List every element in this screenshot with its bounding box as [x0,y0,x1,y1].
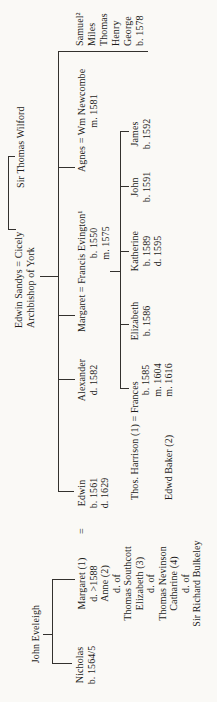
connector-eveleigh-descent [43,634,52,635]
wife-3-father: Thomas Nevinson [157,511,169,656]
person-elizabeth: Elizabeth b. 1586 [129,292,152,350]
connector-cicely-up [8,229,16,230]
death-date: d. 1582 [88,346,100,414]
person-sir-thomas-wilford: Sir Thomas Wilford [15,106,26,188]
person-margaret-francis-evington: Margaret = Francis Evington¹ [76,210,87,332]
drop-nicholas [52,663,72,664]
agnes-marriage-date: m. 1581 [88,80,100,142]
person-john-eveleigh: John Eveleigh [30,596,41,672]
drop-john [120,186,129,187]
person-name: James [129,106,141,162]
person-john: John b. 1591 [129,159,152,215]
baker-marriage-date: m. 1616 [163,350,174,410]
person-agnes-wm-newcombe: Agnes = Wm Newcombe [76,69,87,172]
wife-2-d-of: d. of [111,511,123,656]
younger-children-list: Samuel² Miles Thomas Henry George b. 157… [74,0,146,46]
drop-elizabeth [120,324,129,325]
person-henry: Henry [110,0,122,46]
wife-3-name: Elizabeth (3) [134,511,146,656]
bar-younger-children [58,51,148,52]
wife-3-d-of: d. of [145,511,157,656]
drop-agnes [58,167,75,168]
person-name: Elizabeth [129,292,141,350]
marriage-date: m. 1581 [88,80,100,142]
birth-date: b. 1586 [141,292,153,350]
sibling-bar-eveleigh-children [52,579,53,664]
birth-date: b. 1585 [140,350,152,410]
birth-date: b. 1592 [141,106,153,162]
person-edwin-sandys-cicely: Edwin Sandys = Cicely [13,232,24,328]
person-edwd-baker: Edwd Baker (2) [163,435,174,500]
person-edwin: Edwin b. 1561 d. 1629 [76,464,111,522]
death-date: d. 1595 [152,222,164,280]
drop-margaret-evington [58,315,75,316]
drop-margaret-eveleigh [52,579,75,580]
connector-cicely-wilford [8,156,9,230]
person-james: James b. 1592 [129,106,152,162]
drop-alexander [58,379,75,380]
person-name: Alexander [76,346,88,414]
birth-date: b. 1591 [141,159,153,215]
marriage-date: m. 1575 [100,212,112,274]
person-thomas: Thomas [98,0,110,46]
drop-frances [120,388,129,389]
person-alexander: Alexander d. 1582 [76,346,99,414]
sibling-bar-evington-children [120,132,121,389]
wife-2-father: Thomas Southcott [122,511,134,656]
birth-date: b. 1589 [141,222,153,280]
drop-edwin [58,491,74,492]
birth-date: b. 1561 [88,464,100,522]
connector-evington-descent [110,271,120,272]
wives-of-edwin-list: Margaret (1) d. >1588 Anne (2) d. of Tho… [76,511,203,656]
person-george: George [122,0,134,46]
wife-4-father: Sir Richard Bulkeley [191,511,203,656]
connector-wilford-down [8,156,15,157]
marriage-date: m. 1604 [152,350,164,410]
drop-james [120,131,129,132]
person-harrison-frances: Thos. Harrison (1) = Frances [129,381,140,500]
death-date: d. 1629 [99,464,111,522]
frances-dates: b. 1585 m. 1604 [140,350,163,410]
sibling-bar-sandys-children [58,51,59,492]
connector-sandys-descent [40,276,58,277]
person-katherine: Katherine b. 1589 d. 1595 [129,222,164,280]
wife-1-death: d. >1588 [88,511,100,656]
wife-2-name: Anne (2) [99,511,111,656]
family-tree: John Eveleigh Edwin Sandys = Cicely Arch… [0,0,217,702]
marriage-equals-sign: = [76,528,87,534]
wife-4-d-of: d. of [180,511,192,656]
person-name: Edwin [76,464,88,522]
birth-date: b. 1578 [134,0,146,46]
drop-katherine [120,251,129,252]
birth-date: b. 1550 [88,212,100,274]
evington-dates: b. 1550 m. 1575 [88,212,111,274]
person-name: John [129,159,141,215]
title-archbishop-of-york: Archbishop of York [25,247,36,328]
person-miles: Miles [86,0,98,46]
person-name: Katherine [129,222,141,280]
wife-4-name: Catharine (4) [168,511,180,656]
person-samuel: Samuel² [74,0,86,46]
